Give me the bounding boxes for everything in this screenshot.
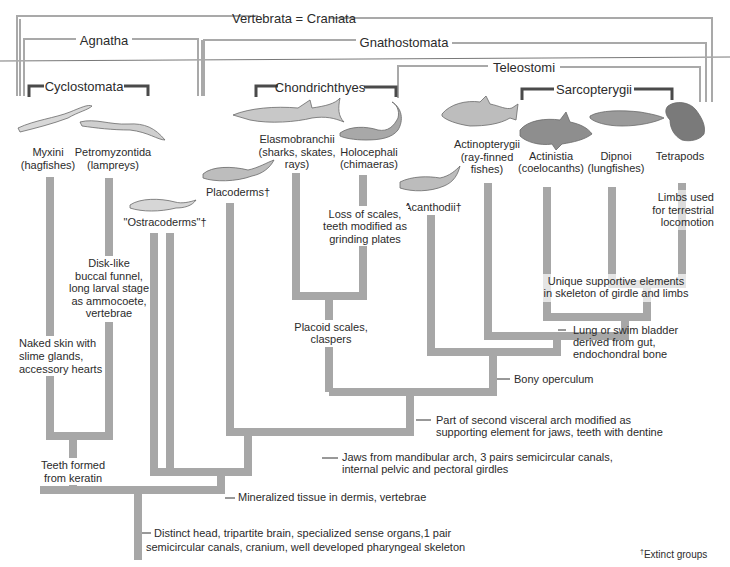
- svg-text:long larval stage: long larval stage: [69, 282, 149, 294]
- bracket-label-sarcopterygii: Sarcopterygii: [556, 82, 632, 97]
- svg-text:Lung or swim bladder: Lung or swim bladder: [573, 324, 679, 336]
- char-tetrapods: Limbs used for terrestrial locomotion: [636, 190, 714, 230]
- svg-text:semicircular canals, cranium,: semicircular canals, cranium, well devel…: [146, 541, 465, 553]
- svg-text:(hagfishes): (hagfishes): [21, 159, 75, 171]
- char-holocephali: Loss of scales, teeth modified as grindi…: [323, 206, 408, 246]
- svg-text:(lampreys): (lampreys): [87, 159, 139, 171]
- svg-text:Placoid scales,: Placoid scales,: [294, 321, 367, 333]
- char-chondrichthyes: Placoid scales, claspers: [294, 320, 367, 347]
- svg-text:Part of second visceral arch m: Part of second visceral arch modified as: [436, 414, 632, 426]
- hagfish-icon: [18, 105, 92, 132]
- perch-icon: [442, 96, 518, 126]
- svg-text:accessory hearts: accessory hearts: [19, 363, 103, 375]
- taxon-acanthodii: Acanthodii†: [404, 201, 462, 213]
- svg-text:internal pelvic and pectoral g: internal pelvic and pectoral girdles: [342, 463, 509, 475]
- cladogram: Vertebrata = Craniata Agnatha Gnathostom…: [0, 0, 730, 567]
- svg-text:Petromyzontida: Petromyzontida: [75, 146, 152, 158]
- char-cyclostomata: Teeth formed from keratin: [38, 458, 108, 485]
- taxon-actinistia: Actinistia (coelocanths): [518, 150, 584, 174]
- svg-text:Dipnoi: Dipnoi: [600, 150, 631, 162]
- char-teleostomi: Bony operculum: [497, 373, 594, 385]
- svg-text:grinding plates: grinding plates: [329, 233, 401, 245]
- char-lamprey: Disk-like buccal funnel, long larval sta…: [68, 256, 150, 322]
- acanthodian-icon: [400, 166, 460, 191]
- ostracoderm-icon: [130, 199, 196, 211]
- bracket-label-agnatha: Agnatha: [80, 33, 129, 48]
- char-second-arch: Part of second visceral arch modified as…: [416, 414, 663, 438]
- bracket-cyclostomata: Cyclostomata: [29, 79, 148, 97]
- svg-text:locomotion: locomotion: [661, 216, 714, 228]
- svg-text:teeth modified as: teeth modified as: [323, 220, 407, 232]
- svg-text:Teeth formed: Teeth formed: [41, 459, 105, 471]
- svg-text:Tetrapods: Tetrapods: [656, 150, 705, 162]
- svg-text:Bony operculum: Bony operculum: [514, 373, 594, 385]
- svg-text:Holocephali: Holocephali: [340, 146, 397, 158]
- svg-text:in skeleton of girdle and limb: in skeleton of girdle and limbs: [544, 287, 689, 299]
- bracket-label-teleostomi: Teleostomi: [493, 60, 555, 75]
- shark-icon: [233, 98, 344, 122]
- svg-text:(coelocanths): (coelocanths): [518, 162, 584, 174]
- svg-text:(chimaeras): (chimaeras): [340, 158, 398, 170]
- svg-text:Mineralized tissue in dermis,: Mineralized tissue in dermis, vertebrae: [238, 491, 426, 503]
- svg-text:Actinistia: Actinistia: [529, 150, 574, 162]
- svg-text:endochondral bone: endochondral bone: [573, 348, 667, 360]
- char-jaws: Jaws from mandibular arch, 3 pairs semic…: [322, 451, 613, 475]
- svg-text:slime glands,: slime glands,: [19, 350, 83, 362]
- svg-text:Disk-like: Disk-like: [88, 257, 130, 269]
- footnote: †Extinct groups: [640, 548, 707, 560]
- taxon-ostracoderms: "Ostracoderms"†: [124, 216, 207, 228]
- svg-text:supporting element for jaws, t: supporting element for jaws, teeth with …: [436, 426, 663, 438]
- bracket-label-vertebrata: Vertebrata = Craniata: [232, 11, 357, 26]
- svg-text:Naked skin with: Naked skin with: [19, 337, 96, 349]
- bracket-teleostomi: Teleostomi: [398, 60, 700, 102]
- placoderm-icon: [203, 160, 274, 181]
- svg-text:"Ostracoderms"†: "Ostracoderms"†: [124, 216, 207, 228]
- lamprey-icon: [80, 121, 165, 140]
- bracket-sarcopterygii: Sarcopterygii: [522, 82, 672, 100]
- svg-text:Elasmobranchii: Elasmobranchii: [259, 133, 334, 145]
- coelacanth-icon: [520, 112, 592, 150]
- svg-text:(ray-finned: (ray-finned: [461, 151, 514, 163]
- bracket-chondrichthyes: Chondrichthyes: [256, 80, 396, 97]
- taxon-petromyzontida: Petromyzontida (lampreys): [75, 146, 152, 171]
- svg-text:Limbs used: Limbs used: [658, 191, 714, 203]
- char-hagfish: Naked skin with slime glands, accessory …: [17, 336, 103, 376]
- svg-text:claspers: claspers: [311, 333, 352, 345]
- scan-line: [0, 57, 730, 61]
- lungfish-icon: [590, 111, 664, 126]
- svg-text:Jaws from mandibular arch, 3 p: Jaws from mandibular arch, 3 pairs semic…: [342, 451, 613, 463]
- svg-text:Unique supportive elements: Unique supportive elements: [548, 275, 685, 287]
- taxon-placoderms: Placoderms†: [206, 186, 270, 198]
- svg-text:†Extinct groups: †Extinct groups: [640, 548, 707, 560]
- taxon-actinopterygii: Actinopterygii (ray-finned fishes): [454, 138, 520, 175]
- bracket-label-gnathostomata: Gnathostomata: [360, 35, 450, 50]
- svg-text:(lungfishes): (lungfishes): [588, 162, 645, 174]
- char-vertebrata: Distinct head, tripartite brain, special…: [142, 527, 465, 553]
- bracket-label-cyclostomata: Cyclostomata: [45, 79, 125, 94]
- svg-text:rays): rays): [285, 158, 309, 170]
- svg-text:Loss of scales,: Loss of scales,: [329, 208, 402, 220]
- svg-text:derived from gut,: derived from gut,: [573, 336, 656, 348]
- frog-icon: [666, 103, 705, 141]
- svg-text:Distinct head, tripartite brai: Distinct head, tripartite brain, special…: [154, 527, 451, 539]
- svg-text:Acanthodii†: Acanthodii†: [404, 201, 462, 213]
- svg-text:Actinopterygii: Actinopterygii: [454, 138, 520, 150]
- svg-text:Myxini: Myxini: [32, 146, 63, 158]
- taxon-tetrapods: Tetrapods: [656, 150, 705, 162]
- chimaera-icon: [340, 102, 401, 140]
- taxon-myxini: Myxini (hagfishes): [21, 146, 75, 171]
- svg-text:Placoderms†: Placoderms†: [206, 186, 270, 198]
- bracket-label-chondrichthyes: Chondrichthyes: [275, 80, 366, 95]
- svg-text:buccal funnel,: buccal funnel,: [75, 270, 143, 282]
- svg-text:from keratin: from keratin: [44, 472, 102, 484]
- char-lung: Lung or swim bladder derived from gut, e…: [558, 324, 679, 360]
- svg-text:as ammocoete,: as ammocoete,: [71, 295, 146, 307]
- svg-text:fishes): fishes): [471, 163, 503, 175]
- svg-text:vertebrae: vertebrae: [86, 307, 132, 319]
- char-sarcopterygii: Unique supportive elements in skeleton o…: [535, 274, 697, 302]
- svg-text:for terrestrial: for terrestrial: [652, 204, 714, 216]
- svg-text:(sharks, skates,: (sharks, skates,: [258, 146, 335, 158]
- taxon-holocephali: Holocephali (chimaeras): [340, 146, 398, 170]
- taxon-dipnoi: Dipnoi (lungfishes): [588, 150, 645, 174]
- char-mineralized: Mineralized tissue in dermis, vertebrae: [225, 491, 426, 503]
